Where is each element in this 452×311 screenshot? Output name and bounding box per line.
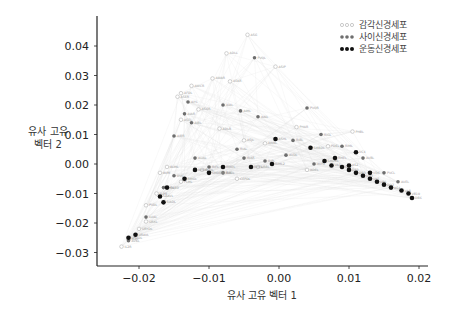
data-point [190,121,194,125]
data-point [179,118,183,122]
data-point [193,156,197,160]
series-1: PVQLPVQRAIYLAIALAIARAIBLAIBRAIMLAINLRIAL… [127,56,409,243]
point-label: ASJL [247,138,254,142]
point-label: CEPDL [240,177,251,181]
data-point [190,84,194,88]
data-point [273,137,278,142]
data-point [326,145,330,149]
point-label: RIBL [296,138,303,142]
legend-marker-icon [350,47,354,51]
data-point [340,165,345,170]
legend-marker-icon [340,47,344,51]
legend-marker-icon [345,35,349,39]
data-point [137,227,141,231]
edge-line [129,135,322,241]
data-point [322,159,327,164]
data-point [399,188,404,193]
data-point [295,125,299,129]
data-point [211,77,215,81]
legend-marker-icon [340,35,344,39]
point-label: PVDL [149,203,158,207]
data-point [144,204,148,208]
edge-line [248,35,364,158]
x-tick-label: −0.02 [122,272,156,285]
data-point [158,171,162,175]
data-point [354,150,359,155]
point-label: RIAL [240,147,247,151]
data-point [242,156,246,160]
point-label: SAAVL [163,194,174,198]
data-point [172,174,176,178]
data-point [375,179,380,184]
data-point [133,233,138,238]
point-label: PDEL [331,144,339,148]
point-label: AVM [163,171,170,175]
point-label: AIAL [226,103,233,107]
data-point [389,185,394,190]
data-point [218,127,222,131]
data-point [312,162,316,166]
y-tick-label: 0.04 [65,40,90,53]
legend-marker-icon [340,23,343,26]
data-point [284,153,288,157]
data-point [263,142,267,146]
data-point [120,245,124,249]
data-point [396,180,400,184]
data-point [406,191,411,196]
data-point [221,103,225,107]
data-point [144,220,148,224]
data-point [126,235,131,240]
edge-line [255,58,259,117]
point-label: SMDVL [328,159,339,163]
point-label: SMDDR [212,171,225,175]
data-point [329,163,334,168]
x-tick-labels: −0.02−0.010.000.010.02 [122,266,431,285]
data-point [221,165,226,170]
y-tick-label: 0.02 [65,99,90,112]
y-tick-label: −0.03 [55,247,89,260]
data-point [182,176,187,181]
point-label: SIADL [167,200,177,204]
y-tick-label: −0.02 [55,217,89,230]
point-label: AIML [244,109,252,113]
point-label: RIAR [247,156,255,160]
data-point [155,192,159,196]
point-label: AVDL [289,153,298,157]
edge-line [248,35,297,127]
edge-line [192,86,224,167]
point-label: RMEL [338,156,347,160]
data-point [225,52,229,56]
data-point [263,159,267,163]
edge-line [241,67,276,111]
point-label: AVEL [401,180,409,184]
x-tick-label: 0.01 [337,272,362,285]
y-tick-label: 0.01 [65,129,90,142]
point-label: PHAR [300,125,309,129]
point-label: RMGL [188,177,197,181]
data-point [176,95,180,99]
data-point [246,33,250,37]
point-label: LUAL [149,215,157,219]
data-point [319,133,323,137]
x-tick-label: −0.01 [192,272,226,285]
legend-label: 운동신경세포 [359,43,407,54]
point-label: DB6 [415,196,422,200]
data-point [270,162,275,167]
data-point [361,174,366,179]
data-point [179,180,183,184]
point-label: AINL [261,115,269,119]
data-point [410,196,415,201]
point-label: PVQR [310,106,320,110]
point-label: RIR [226,171,232,175]
point-label: ADLL [230,51,238,55]
edge-line [202,111,241,170]
data-point [340,145,344,149]
point-label: RIGL [324,133,332,137]
point-label: ASKR [233,79,242,83]
data-point [249,165,254,170]
point-label: AS4 [394,186,400,190]
data-point [347,168,352,173]
data-point [197,108,201,112]
data-point [368,176,373,181]
data-point [256,115,260,119]
